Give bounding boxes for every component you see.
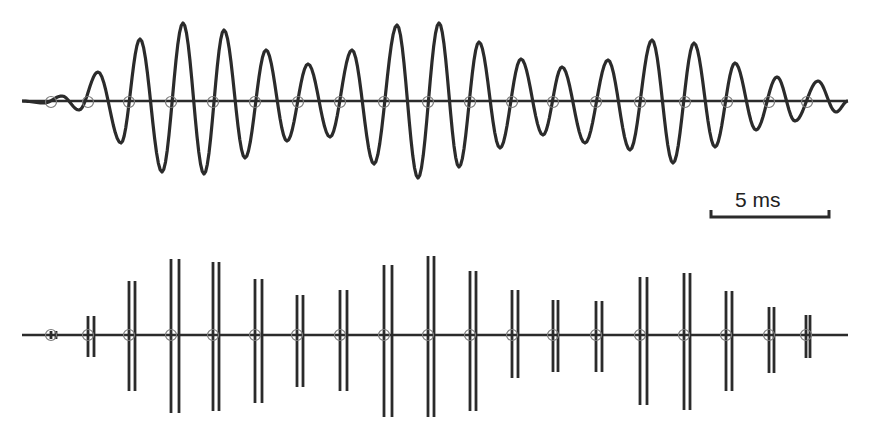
spike-plot — [22, 256, 848, 417]
spike-bars — [51, 256, 810, 417]
scale-bar-label: 5 ms — [735, 188, 781, 212]
figure-canvas — [0, 0, 876, 433]
waveform-plot — [22, 23, 848, 178]
